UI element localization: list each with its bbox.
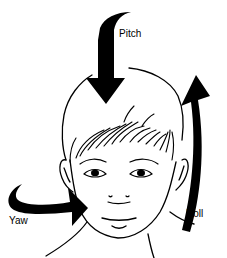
- nose: [108, 196, 130, 204]
- head-outline: [46, 68, 194, 258]
- mouth: [102, 218, 136, 228]
- yaw-label: Yaw: [9, 216, 28, 226]
- eyes: [84, 170, 152, 178]
- roll-label: Roll: [186, 209, 203, 219]
- eyebrows: [80, 159, 158, 164]
- pitch-label: Pitch: [119, 29, 141, 39]
- head-rotation-diagram: Pitch Roll Yaw: [0, 0, 227, 258]
- pitch-arrow-icon: [86, 12, 131, 104]
- hair-strokes: [70, 106, 174, 162]
